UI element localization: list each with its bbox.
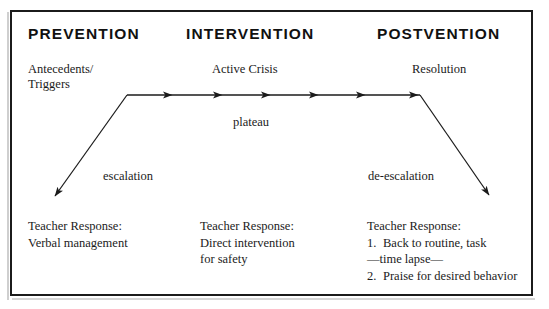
frame-shadow-bottom	[12, 298, 535, 300]
teacher-response-prevention-line-1: Verbal management	[28, 235, 128, 252]
phase-heading-postvention: POSTVENTION	[377, 25, 500, 43]
teacher-response-postvention-item-2: 2.Praise for desired behavior	[367, 268, 517, 285]
frame-shadow-left	[7, 12, 9, 300]
postvention-item-1-number: 1.	[367, 235, 383, 252]
curve-label-plateau: plateau	[233, 115, 269, 130]
teacher-response-prevention: Teacher Response: Verbal management	[28, 218, 128, 251]
teacher-response-prevention-title: Teacher Response:	[28, 218, 128, 235]
teacher-response-intervention-line-1: Direct intervention	[200, 235, 295, 252]
stage-caption-resolution: Resolution	[412, 62, 466, 77]
teacher-response-postvention-time-lapse: —time lapse—	[367, 251, 517, 268]
postvention-item-2-number: 2.	[367, 268, 383, 285]
curve-label-escalation: escalation	[103, 169, 153, 184]
postvention-item-1-text: Back to routine, task	[383, 236, 486, 250]
phase-heading-prevention: PREVENTION	[28, 25, 140, 43]
crisis-cycle-figure: PREVENTION INTERVENTION POSTVENTION Ante…	[0, 0, 549, 309]
phase-heading-intervention: INTERVENTION	[186, 25, 314, 43]
teacher-response-intervention: Teacher Response: Direct intervention fo…	[200, 218, 295, 268]
teacher-response-intervention-line-2: for safety	[200, 251, 295, 268]
teacher-response-postvention-item-1: 1.Back to routine, task	[367, 235, 517, 252]
teacher-response-postvention: Teacher Response: 1.Back to routine, tas…	[367, 218, 517, 284]
teacher-response-intervention-title: Teacher Response:	[200, 218, 295, 235]
curve-label-de-escalation: de-escalation	[368, 169, 434, 184]
stage-caption-antecedents: Antecedents/ Triggers	[28, 62, 93, 92]
teacher-response-postvention-title: Teacher Response:	[367, 218, 517, 235]
stage-caption-active-crisis: Active Crisis	[212, 62, 278, 77]
postvention-item-2-text: Praise for desired behavior	[383, 269, 517, 283]
